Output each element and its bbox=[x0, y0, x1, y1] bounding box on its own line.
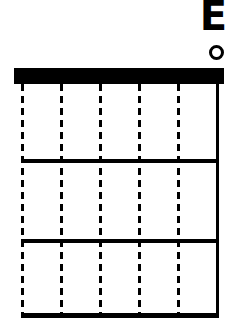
fret-1 bbox=[21, 159, 219, 163]
string-4 bbox=[138, 84, 141, 316]
string-5 bbox=[177, 84, 180, 316]
fret-3 bbox=[21, 313, 219, 318]
string-6 bbox=[216, 84, 219, 318]
nut bbox=[14, 68, 224, 84]
string-3 bbox=[99, 84, 102, 316]
fret-2 bbox=[21, 239, 219, 243]
string-1 bbox=[21, 84, 24, 316]
string-2 bbox=[60, 84, 63, 316]
open-string-marker-icon bbox=[209, 45, 224, 60]
chord-name: E bbox=[200, 0, 227, 36]
